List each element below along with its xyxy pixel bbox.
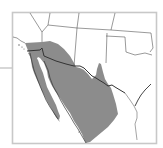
range-map <box>0 0 163 148</box>
